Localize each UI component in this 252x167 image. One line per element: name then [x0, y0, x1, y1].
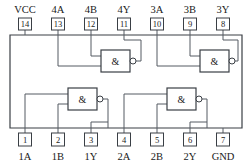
gate-1-inversion-bubble [97, 96, 103, 102]
pin-number-12: 12 [87, 19, 96, 29]
pin-number-6: 6 [188, 135, 192, 145]
wire-pin5-to-gate2-input-b [157, 104, 167, 128]
gate-4-symbol: & [112, 56, 120, 67]
pin-label-4b: 4B [85, 4, 97, 15]
wire-pin13-to-gate4-input-a [58, 35, 101, 66]
pin-label-3y: 3Y [217, 4, 230, 15]
schematic-canvas: & & & & 14 13 12 11 10 9 8 VCC 4A 4B 4Y … [0, 0, 252, 167]
pin-number-13: 13 [54, 19, 63, 29]
wire-pin9-to-gate3-input-b [190, 35, 200, 56]
pin-label-4a: 4A [52, 4, 65, 15]
pin-label-vcc: VCC [14, 4, 36, 15]
wire-gate1-output-to-pin3 [103, 99, 108, 128]
wire-pin10-to-gate3-input-a [157, 35, 200, 66]
wire-gate2-output-to-pin6 [202, 99, 207, 128]
pin-number-14: 14 [21, 19, 30, 29]
pin-label-3a: 3A [151, 4, 164, 15]
wire-pin1-to-gate1-input-a [25, 94, 68, 128]
pin-label-1b: 1B [52, 151, 64, 162]
pin-label-1a: 1A [19, 151, 32, 162]
gate-3-inversion-bubble [229, 58, 235, 64]
pin-number-9: 9 [188, 19, 192, 29]
gate-2-inversion-bubble [196, 96, 202, 102]
gate-1-symbol: & [79, 94, 87, 105]
gate-4-inversion-bubble [130, 58, 136, 64]
pin-label-gnd: GND [212, 151, 235, 162]
pin-label-1y: 1Y [85, 151, 98, 162]
pin-number-3: 3 [89, 135, 93, 145]
wire-pin12-to-gate4-input-b [91, 35, 101, 56]
pin-label-2b: 2B [151, 151, 163, 162]
ic-pinout-diagram: & & & & 14 13 12 11 10 9 8 VCC 4A 4B 4Y … [0, 0, 252, 167]
pin-number-1: 1 [23, 135, 27, 145]
pin-number-8: 8 [221, 19, 225, 29]
gate-3-symbol: & [211, 56, 219, 67]
gate-2-symbol: & [178, 94, 186, 105]
pin-number-10: 10 [153, 19, 162, 29]
pin-number-7: 7 [221, 135, 225, 145]
pin-number-11: 11 [120, 19, 128, 29]
pin-number-5: 5 [155, 135, 159, 145]
pin-number-2: 2 [56, 135, 60, 145]
wire-pin2-to-gate1-input-b [58, 104, 68, 128]
pin-label-2y: 2Y [184, 151, 197, 162]
pin-label-4y: 4Y [118, 4, 131, 15]
pin-label-3b: 3B [184, 4, 196, 15]
wire-pin4-to-gate2-input-a [124, 94, 167, 128]
pin-label-2a: 2A [118, 151, 131, 162]
